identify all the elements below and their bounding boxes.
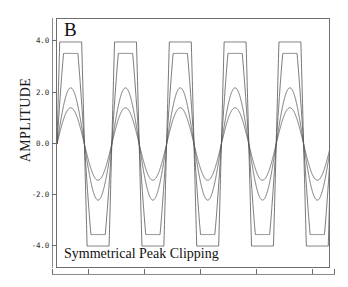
waveform-curves	[57, 19, 330, 268]
y-tick-label: -4.0	[32, 241, 49, 250]
figure-panel-b: AMPLITUDE 4.0 2.0 0.0 -2.0 -4.0 B Symmet…	[0, 0, 348, 287]
y-axis-title: AMPLITUDE	[18, 50, 34, 190]
x-tick-mark	[200, 269, 201, 274]
plot-area	[56, 18, 330, 268]
waveform-clip-moderate	[57, 53, 330, 234]
waveform-clip-hard	[57, 42, 330, 246]
x-axis-spine	[52, 274, 335, 275]
x-tick-mark	[334, 269, 335, 274]
x-tick-mark	[144, 269, 145, 274]
x-tick-mark	[256, 269, 257, 274]
x-tick-mark	[52, 269, 53, 274]
y-tick-label: -2.0	[32, 190, 49, 199]
x-tick-mark	[88, 269, 89, 274]
x-tick-mark	[312, 269, 313, 274]
chart-annotation-caption: Symmetrical Peak Clipping	[64, 246, 219, 262]
y-tick-label: 0.0	[36, 139, 49, 148]
y-tick-label: 4.0	[36, 36, 49, 45]
y-tick-label: 2.0	[36, 88, 49, 97]
panel-label: B	[64, 20, 77, 39]
waveform-unclipped-mid	[57, 88, 330, 200]
